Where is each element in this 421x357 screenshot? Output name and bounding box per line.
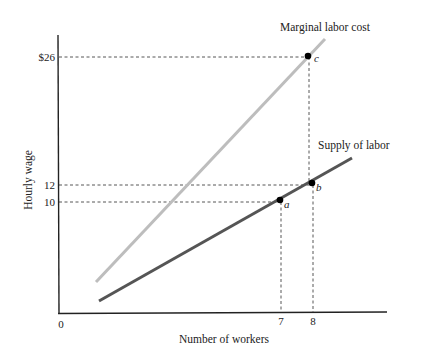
x-tick-8: 8 <box>310 315 316 327</box>
point-b <box>309 180 316 187</box>
marginal-labor-cost-curve <box>96 39 325 282</box>
supply-of-labor-label: Supply of labor <box>318 139 390 152</box>
x-axis-title: Number of workers <box>179 333 270 345</box>
y-axis-title: Hourly wage <box>22 150 35 210</box>
supply-of-labor-curve <box>99 158 352 301</box>
y-tick-10: 10 <box>44 196 56 208</box>
point-c <box>305 53 312 60</box>
point-a <box>277 197 284 204</box>
y-axis <box>58 35 59 314</box>
x-origin-label: 0 <box>58 318 64 330</box>
marginal-labor-cost-label: Marginal labor cost <box>280 21 371 34</box>
point-b-label: b <box>316 181 322 193</box>
labor-market-chart: c b a Marginal labor cost Supply of labo… <box>0 0 421 357</box>
point-c-label: c <box>314 52 319 64</box>
y-tick-26: $26 <box>39 51 56 63</box>
x-tick-7: 7 <box>278 315 284 327</box>
x-axis <box>58 312 387 314</box>
point-a-label: a <box>284 198 290 210</box>
y-tick-12: 12 <box>44 179 55 191</box>
